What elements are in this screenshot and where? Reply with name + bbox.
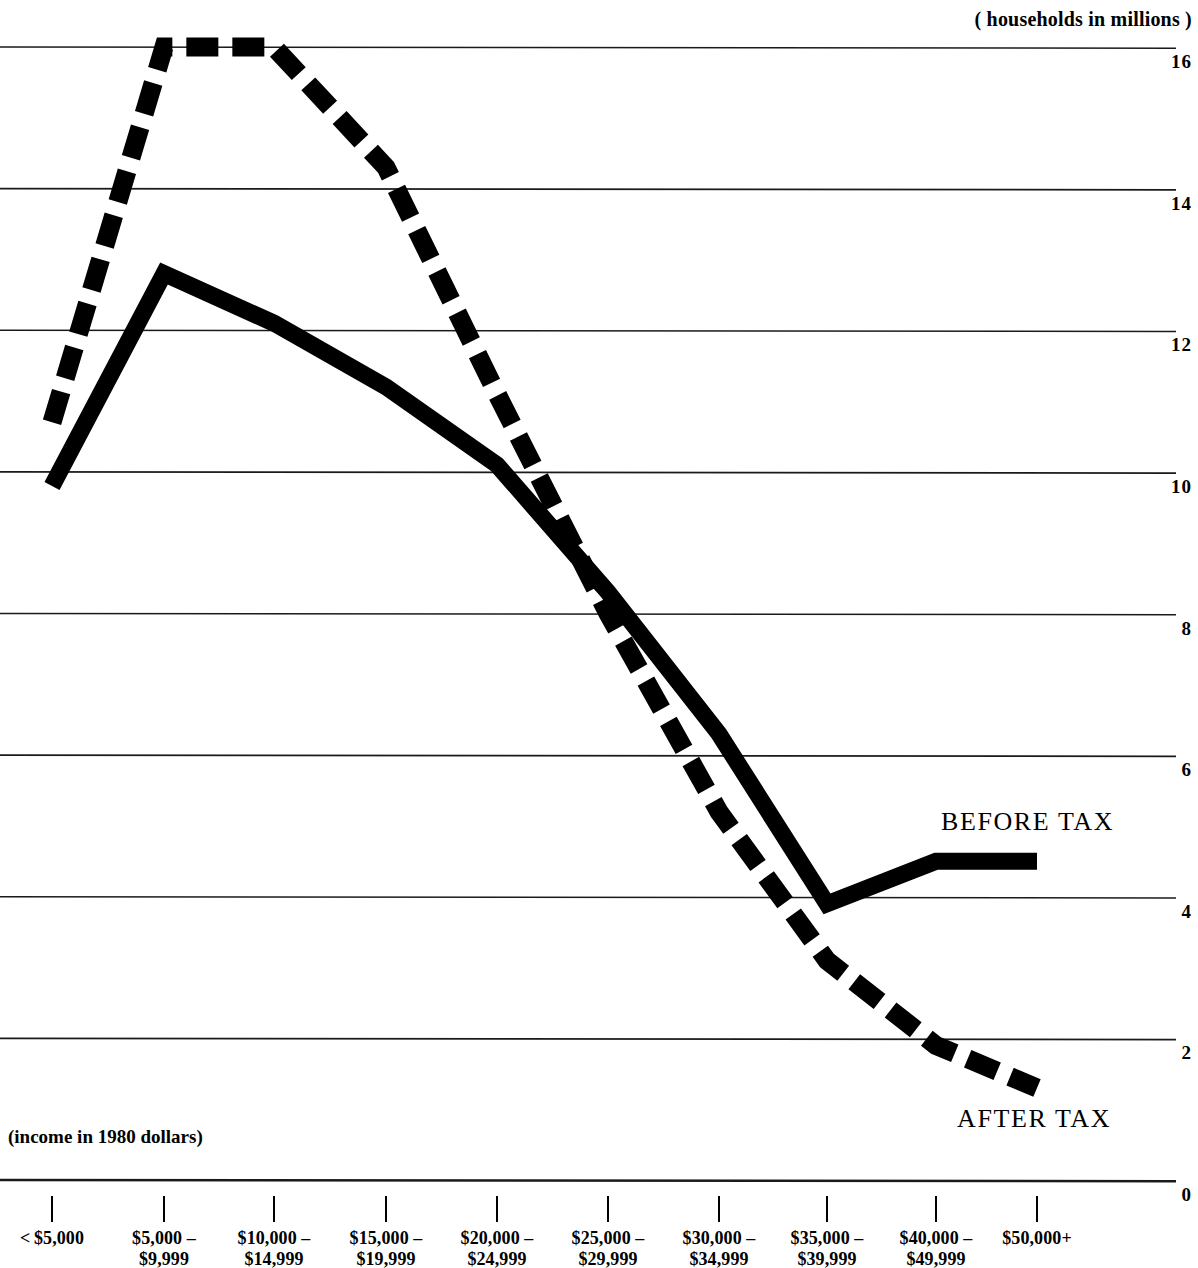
x-axis-tick [826,1196,828,1222]
x-axis-category-label-line1: $5,000 – [132,1228,196,1248]
x-axis-category-label-line2: $29,999 [572,1249,645,1268]
x-axis-unit-caption: (income in 1980 dollars) [8,1126,203,1148]
y-axis-tick-label: 12 [1171,335,1192,354]
chart-root: ( households in millions ) 1614121086420… [0,0,1198,1268]
gridline [0,614,1176,615]
y-axis-tick-label: 2 [1182,1043,1193,1062]
series-layer [52,47,1037,1088]
x-axis-tick [496,1196,498,1222]
x-axis-category-label-line1: $40,000 – [900,1228,973,1248]
x-axis-category-label-line1: $20,000 – [461,1228,534,1248]
x-axis-category-label-line2: $9,999 [132,1249,196,1268]
gridline [0,1180,1176,1181]
x-axis-tick [385,1196,387,1222]
x-axis-tick [163,1196,165,1222]
gridline [0,472,1176,473]
x-axis-category-label-line1: $25,000 – [572,1228,645,1248]
y-axis-tick-label: 8 [1182,619,1193,638]
plot-area [0,0,1198,1198]
gridline [0,755,1176,756]
series-label-before-tax: BEFORE TAX [941,807,1114,837]
x-axis-tick [51,1196,53,1222]
x-axis-category-label-line2: $24,999 [461,1249,534,1268]
x-axis-category-label-line1: $15,000 – [350,1228,423,1248]
x-axis-category-label-line1: $30,000 – [683,1228,756,1248]
x-axis-category-label: $15,000 –$19,999 [350,1228,423,1268]
gridlines [0,47,1176,1181]
gridline [0,1038,1176,1039]
x-axis-tick [718,1196,720,1222]
x-axis-tick [1036,1196,1038,1222]
x-axis-category-label-line2: $19,999 [350,1249,423,1268]
y-axis-tick-label: 4 [1182,902,1193,921]
x-axis-category-label-line2: $14,999 [238,1249,311,1268]
gridline [0,47,1176,48]
y-axis-tick-label: 16 [1171,52,1192,71]
x-axis-category-label: $50,000+ [1002,1228,1072,1249]
x-axis-category-label-line1: $35,000 – [791,1228,864,1248]
gridline [0,330,1176,331]
series-label-after-tax: AFTER TAX [957,1104,1111,1134]
x-axis-category-label: $25,000 –$29,999 [572,1228,645,1268]
x-axis-category-label: $5,000 –$9,999 [132,1228,196,1268]
x-axis-category-label: $20,000 –$24,999 [461,1228,534,1268]
gridline [0,189,1176,190]
x-axis-category-label-line2: $34,999 [683,1249,756,1268]
x-axis-tick [273,1196,275,1222]
x-axis-category-label: $35,000 –$39,999 [791,1228,864,1268]
plot-svg [0,0,1198,1198]
x-axis-category-label: < $5,000 [20,1228,84,1249]
x-axis-category-label-line1: < $5,000 [20,1228,84,1248]
x-axis-tick [935,1196,937,1222]
x-axis-category-label-line2: $39,999 [791,1249,864,1268]
y-axis-tick-label: 0 [1182,1185,1193,1204]
series-line-after-tax [52,47,1037,1088]
x-axis-category-label: $30,000 –$34,999 [683,1228,756,1268]
y-axis-tick-label: 14 [1171,194,1192,213]
y-axis-tick-label: 6 [1182,760,1193,779]
x-axis-tick [607,1196,609,1222]
x-axis-category-label: $40,000 –$49,999 [900,1228,973,1268]
x-axis-category-label-line2: $49,999 [900,1249,973,1268]
gridline [0,897,1176,898]
series-line-before-tax [52,274,1037,904]
x-axis-category-label: $10,000 –$14,999 [238,1228,311,1268]
x-axis-category-label-line1: $10,000 – [238,1228,311,1248]
x-axis-category-label-line1: $50,000+ [1002,1228,1072,1248]
y-axis-tick-label: 10 [1171,477,1192,496]
